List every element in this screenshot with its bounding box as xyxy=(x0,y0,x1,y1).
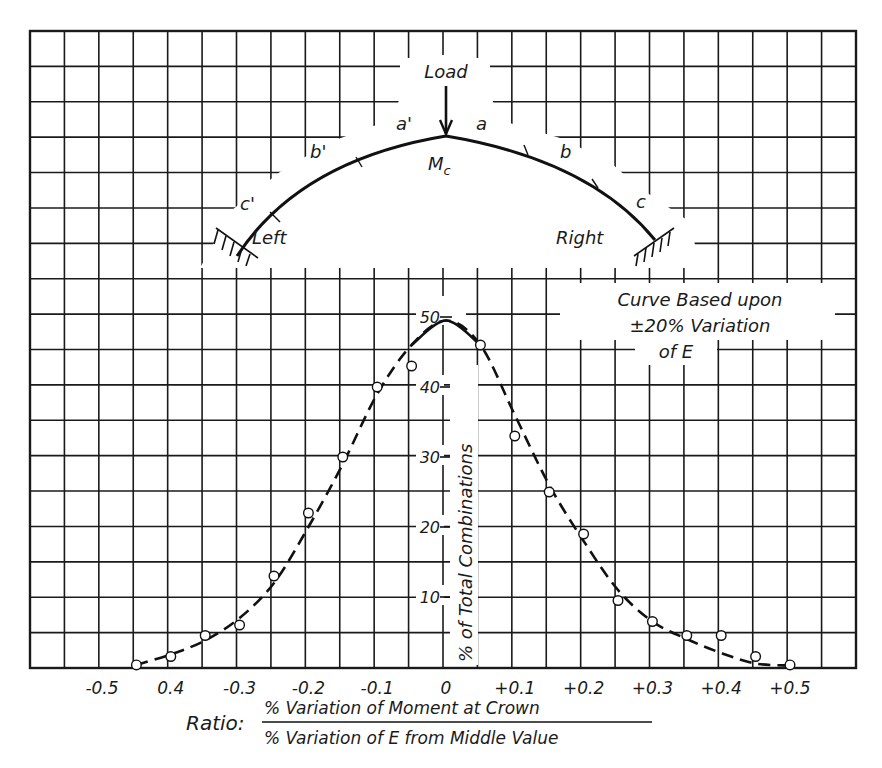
x-tick-label: +0.2 xyxy=(563,678,604,698)
y-axis-title: % of Total Combinations xyxy=(450,365,478,665)
x-axis-label-prefix: Ratio: xyxy=(186,711,245,735)
x-tick-label: +0.4 xyxy=(701,678,742,698)
data-point xyxy=(476,340,486,350)
y-tick-label: 20 xyxy=(420,518,440,537)
data-point xyxy=(716,631,726,641)
data-point xyxy=(269,571,279,581)
x-axis-label-numerator: % Variation of Moment at Crown xyxy=(264,698,540,718)
data-point xyxy=(200,631,210,641)
note-line-3: of E xyxy=(659,341,694,362)
data-point xyxy=(338,452,348,462)
data-point xyxy=(510,431,520,441)
x-tick-label: -0.1 xyxy=(361,678,394,698)
data-point xyxy=(304,508,314,518)
segment-label-b-prime: b' xyxy=(310,141,326,162)
data-point xyxy=(235,620,245,630)
note-line-1: Curve Based upon xyxy=(617,289,782,310)
data-point xyxy=(372,382,382,392)
x-tick-label: +0.5 xyxy=(769,678,810,698)
segment-label-a: a xyxy=(476,113,487,134)
data-point xyxy=(648,617,658,627)
y-axis-label: % of Total Combinations xyxy=(455,444,476,662)
data-point xyxy=(407,361,417,371)
data-point xyxy=(544,487,554,497)
x-tick-label: +0.1 xyxy=(494,678,535,698)
chart-figure: Load Mc a' a b' b c' c Left Right Curve … xyxy=(0,0,882,768)
segment-label-c-prime: c' xyxy=(240,193,255,214)
x-axis: -0.50.4-0.3-0.2-0.10+0.1+0.2+0.3+0.4+0.5 xyxy=(85,678,810,698)
data-point xyxy=(682,631,692,641)
x-axis-label-denominator: % Variation of E from Middle Value xyxy=(264,728,558,748)
data-point xyxy=(751,652,761,662)
segment-label-c: c xyxy=(636,191,646,212)
data-point xyxy=(785,660,795,670)
x-axis-title: Ratio: % Variation of Moment at Crown % … xyxy=(186,698,652,748)
left-support-label: Left xyxy=(252,227,287,248)
x-tick-label: +0.3 xyxy=(632,678,673,698)
y-tick-label: 30 xyxy=(420,448,440,467)
x-tick-label: -0.3 xyxy=(223,678,256,698)
load-label: Load xyxy=(424,61,468,82)
y-tick-label: 40 xyxy=(420,378,440,397)
data-point xyxy=(579,529,589,539)
right-support-label: Right xyxy=(556,227,604,248)
segment-label-b: b xyxy=(560,141,571,162)
data-point xyxy=(613,596,623,606)
x-tick-label: -0.2 xyxy=(292,678,325,698)
data-point xyxy=(166,652,176,662)
x-tick-label: -0.5 xyxy=(85,678,118,698)
x-tick-label: 0.4 xyxy=(157,678,184,698)
data-point xyxy=(132,660,142,670)
note-line-2: ±20% Variation xyxy=(630,315,771,336)
y-tick-label: 10 xyxy=(420,588,440,607)
segment-label-a-prime: a' xyxy=(396,113,412,134)
x-tick-label: 0 xyxy=(441,678,452,698)
